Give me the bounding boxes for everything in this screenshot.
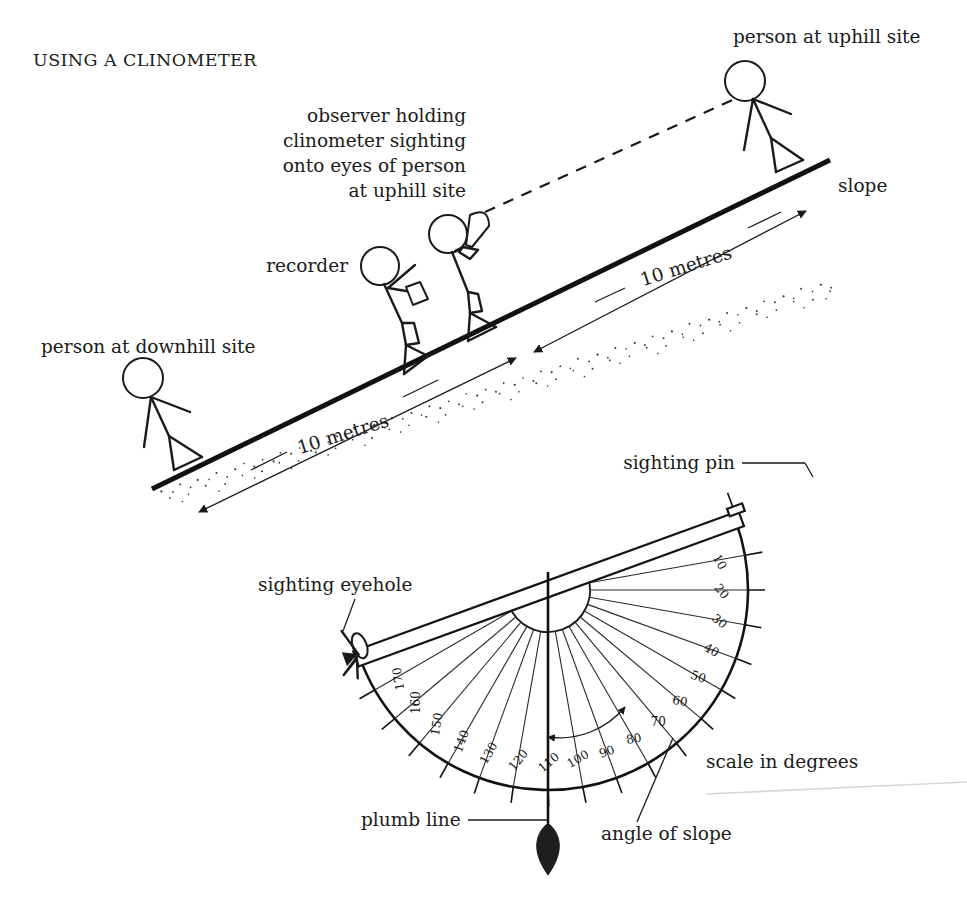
sighting-pin-label: sighting pin [623,452,735,473]
scale-number-70: 70 [651,715,666,729]
person-downhill-label: person at downhill site [41,336,256,357]
scale-number-60: 60 [671,693,688,709]
uphill-head [725,61,765,101]
scale-number-80: 80 [625,730,642,746]
observer-caption-line-2: clinometer sighting [283,130,466,151]
scale-number-160: 160 [409,691,423,714]
scale-in-degrees-label: scale in degrees [706,751,858,772]
observer-caption-line-3: onto eyes of person [283,155,466,176]
observer-caption-line-4: at uphill site [349,180,466,201]
plumb-line-label: plumb line [361,809,461,830]
sighting-eyehole-label: sighting eyehole [258,574,412,595]
page-title: USING A CLINOMETER [33,50,257,70]
recorder-head [361,247,399,285]
angle-of-slope-label: angle of slope [601,823,732,844]
observer-caption-line-1: observer holding [307,105,466,126]
recorder-label: recorder [266,255,348,276]
clinometer-diagram-canvas: USING A CLINOMETER [0,0,967,897]
clinometer-figure: USING A CLINOMETER [0,0,967,897]
downhill-head [123,358,163,398]
slope-label: slope [838,175,887,196]
person-uphill-label: person at uphill site [733,26,921,47]
